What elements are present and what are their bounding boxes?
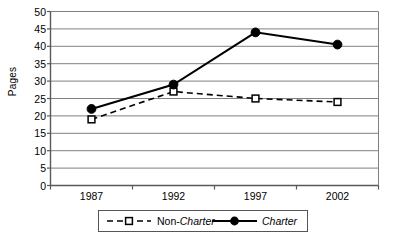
x-tick-label: 1992	[144, 190, 204, 202]
x-tick-label: 1987	[62, 190, 122, 202]
chart-legend: Non-Charter Charter	[98, 210, 308, 232]
legend-item-non-charter-prefix: Non-	[157, 215, 180, 227]
legend-item-non-charter: Non-Charter	[157, 215, 215, 227]
x-tick-label: 1997	[226, 190, 286, 202]
chart-container: 05101520253035404550 1987199219972002 Pa…	[0, 0, 394, 239]
legend-item-non-charter-italic: Charter	[180, 215, 215, 227]
x-tick-label: 2002	[308, 190, 368, 202]
y-axis-title: Pages	[7, 52, 18, 112]
legend-item-charter: Charter	[262, 215, 297, 227]
x-axis-tick-labels: 1987199219972002	[0, 0, 394, 239]
